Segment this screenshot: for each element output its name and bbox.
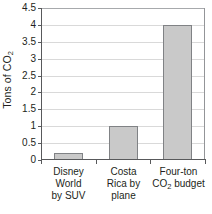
- x-axis-line: [41, 159, 206, 160]
- bar-chart: Tons of CO2 00.511.522.533.544.5 DisneyW…: [0, 0, 212, 214]
- y-axis-tick-label: 2.5: [22, 71, 36, 81]
- y-axis-tick-label: 2: [30, 87, 36, 97]
- x-axis-tickmark: [150, 159, 151, 164]
- y-axis-tick-label: 0: [30, 155, 36, 165]
- x-axis-label-line: Costa: [97, 166, 150, 178]
- y-axis-tick-labels: 00.511.522.533.544.5: [16, 8, 38, 160]
- x-axis-label-line: World: [42, 178, 95, 190]
- x-axis-tickmark: [41, 159, 42, 164]
- x-axis-label-line: Rica by: [97, 178, 150, 190]
- bar: [109, 126, 138, 160]
- x-axis-category-label: Four-tonCO2 budget: [151, 166, 206, 214]
- x-axis-label-line: CO2 budget: [152, 178, 205, 193]
- subscript-2: 2: [167, 182, 171, 191]
- x-axis-category-labels: DisneyWorldby SUVCostaRica byplaneFour-t…: [41, 166, 206, 214]
- bars-layer: [41, 8, 205, 160]
- x-axis-tickmark: [96, 159, 97, 164]
- x-axis-label-line: plane: [97, 190, 150, 202]
- y-axis-title: Tons of CO2: [0, 0, 16, 160]
- y-axis-tick-label: 0.5: [22, 138, 36, 148]
- x-axis-category-label: DisneyWorldby SUV: [41, 166, 96, 214]
- y-axis-tick-label: 3.5: [22, 37, 36, 47]
- y-axis-tick-label: 1.5: [22, 104, 36, 114]
- x-axis-label-line: by SUV: [42, 190, 95, 202]
- y-axis-tick-label: 4.5: [22, 3, 36, 13]
- x-axis-tickmark: [205, 159, 206, 164]
- y-axis-title-text: Tons of CO: [1, 55, 13, 109]
- y-axis-tick-label: 3: [30, 54, 36, 64]
- bar: [163, 25, 192, 160]
- x-axis-label-line: Disney: [42, 166, 95, 178]
- y-axis-tick-label: 1: [30, 121, 36, 131]
- x-axis-label-line: Four-ton: [152, 166, 205, 178]
- y-axis-title-subscript: 2: [6, 51, 15, 55]
- y-axis-tick-label: 4: [30, 20, 36, 30]
- x-axis-category-label: CostaRica byplane: [96, 166, 151, 214]
